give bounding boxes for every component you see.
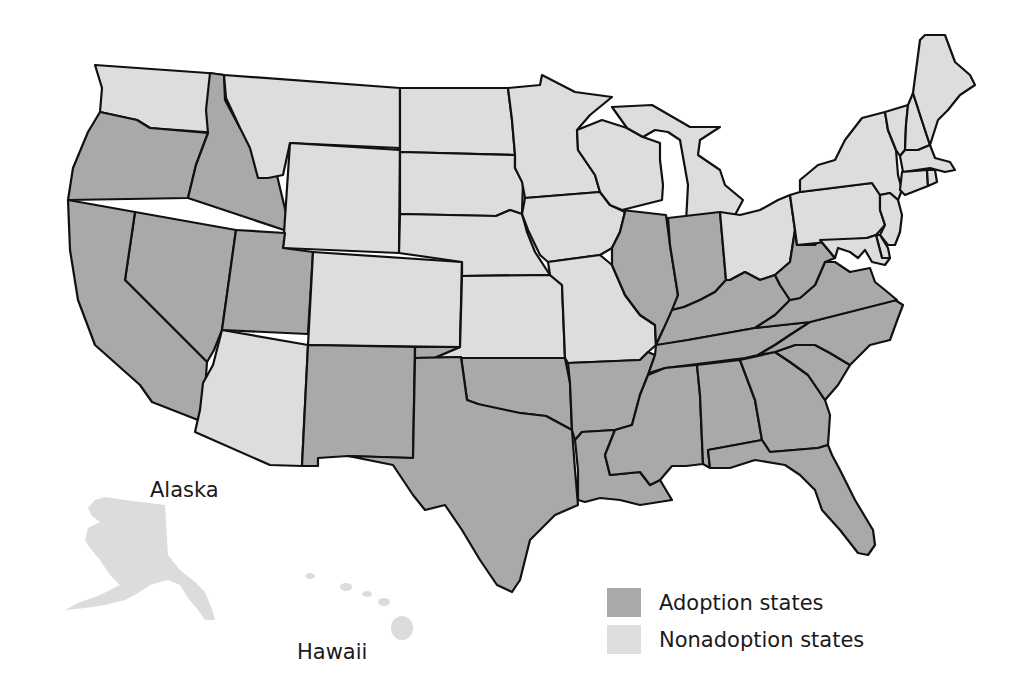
state-ma (900, 145, 955, 172)
legend-item-adoption: Adoption states (607, 584, 864, 621)
state-ri (927, 170, 937, 186)
hawaii-island (305, 573, 315, 579)
state-fl (708, 440, 875, 555)
hawaii-island (391, 616, 413, 640)
state-nj (880, 193, 902, 245)
alaska-shape (65, 497, 215, 620)
hawaii-island (340, 583, 352, 591)
legend-label-nonadoption: Nonadoption states (659, 628, 864, 652)
state-ak (65, 497, 215, 620)
state-nd (400, 88, 515, 155)
legend-item-nonadoption: Nonadoption states (607, 621, 864, 658)
adoption-swatch (607, 588, 641, 617)
contiguous-states (68, 35, 975, 592)
state-sd (400, 152, 523, 216)
hawaii-island (362, 591, 372, 597)
alaska-label: Alaska (150, 478, 219, 502)
state-wy (283, 143, 400, 253)
us-map (0, 0, 1033, 688)
legend-label-adoption: Adoption states (659, 591, 824, 615)
hawaii-label: Hawaii (297, 640, 367, 664)
nonadoption-swatch (607, 625, 641, 654)
state-co (308, 252, 462, 347)
map-legend: Adoption states Nonadoption states (607, 584, 864, 658)
state-ct (900, 170, 928, 195)
state-nm (302, 345, 415, 466)
hawaii-island (378, 598, 390, 606)
hawaii-shape (305, 573, 413, 640)
